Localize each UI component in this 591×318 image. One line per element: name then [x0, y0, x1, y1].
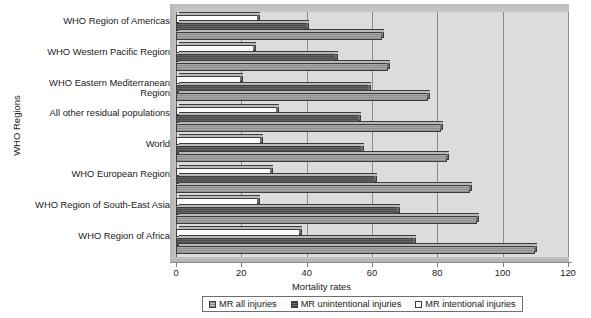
bar-all-6	[176, 216, 477, 224]
bar-all-4	[176, 154, 447, 162]
x-tick-label-100: 100	[483, 267, 523, 278]
bar-top-face	[179, 12, 260, 15]
x-axis-title: Mortality rates	[0, 281, 591, 292]
category-label-5: WHO European Region	[18, 169, 170, 180]
plot-area	[176, 12, 568, 257]
bar-top-face	[179, 20, 309, 23]
category-label-7: WHO Region of Africa	[18, 231, 170, 242]
category-label-6: WHO Region of South-East Asia	[18, 200, 170, 211]
bar-top-face	[179, 226, 302, 229]
legend-item-intentional-injuries: MR intentional injuries	[415, 299, 515, 309]
bar-top-face	[179, 60, 390, 63]
bar-all-2	[176, 93, 428, 101]
x-axis-line	[170, 262, 572, 263]
x-tick-label-120: 120	[548, 267, 588, 278]
legend-label-intentional-injuries: MR intentional injuries	[425, 299, 515, 309]
bar-top-face	[179, 243, 537, 246]
bar-all-3	[176, 124, 441, 132]
bar-top-face	[179, 165, 273, 168]
bar-top-face	[179, 112, 361, 115]
bar-top-face	[179, 182, 472, 185]
category-label-4: World	[18, 139, 170, 150]
x-tick-label-80: 80	[417, 267, 457, 278]
category-label-2: WHO Eastern Mediterranean Region	[18, 78, 170, 99]
bar-top-face	[179, 73, 243, 76]
bar-top-face	[179, 42, 256, 45]
bar-all-7	[176, 246, 535, 254]
bar-top-face	[179, 134, 263, 137]
bar-top-face	[179, 104, 279, 107]
x-tick-label-40: 40	[287, 267, 327, 278]
bar-top-face	[179, 151, 449, 154]
x-tick-label-60: 60	[352, 267, 392, 278]
bar-top-face	[179, 143, 364, 146]
bar-top-face	[179, 90, 430, 93]
x-tick-label-0: 0	[156, 267, 196, 278]
bar-top-face	[179, 29, 384, 32]
legend-swatch-unintentional-injuries-icon	[291, 301, 298, 308]
mortality-rates-bar-chart: WHO Regions WHO Region of AmericasWHO We…	[0, 0, 591, 318]
bar-top-face	[179, 213, 479, 216]
legend-swatch-all-injuries-icon	[209, 301, 216, 308]
chart-legend: MR all injuries MR unintentional injurie…	[202, 296, 523, 312]
category-label-3: All other residual populations	[18, 108, 170, 119]
category-label-list: WHO Region of AmericasWHO Western Pacifi…	[18, 4, 170, 260]
legend-swatch-intentional-injuries-icon	[415, 301, 422, 308]
bar-top-face	[179, 82, 371, 85]
category-label-0: WHO Region of Americas	[18, 16, 170, 27]
legend-label-all-injuries: MR all injuries	[219, 299, 277, 309]
legend-item-all-injuries: MR all injuries	[209, 299, 277, 309]
bar-all-0	[176, 32, 382, 40]
bar-top-face	[179, 204, 400, 207]
bar-top-face	[179, 195, 260, 198]
bar-top-face	[179, 121, 443, 124]
bar-top-face	[179, 235, 416, 238]
category-label-1: WHO Western Pacific Region	[18, 47, 170, 58]
x-tick-label-20: 20	[221, 267, 261, 278]
bar-all-5	[176, 185, 470, 193]
gridline-100	[503, 12, 504, 257]
legend-item-unintentional-injuries: MR unintentional injuries	[291, 299, 402, 309]
bar-all-1	[176, 63, 388, 71]
x-axis-title-text: Mortality rates	[292, 281, 351, 292]
legend-label-unintentional-injuries: MR unintentional injuries	[301, 299, 402, 309]
bar-top-face	[179, 51, 338, 54]
gridline-120	[568, 12, 569, 257]
bar-top-face	[179, 173, 377, 176]
